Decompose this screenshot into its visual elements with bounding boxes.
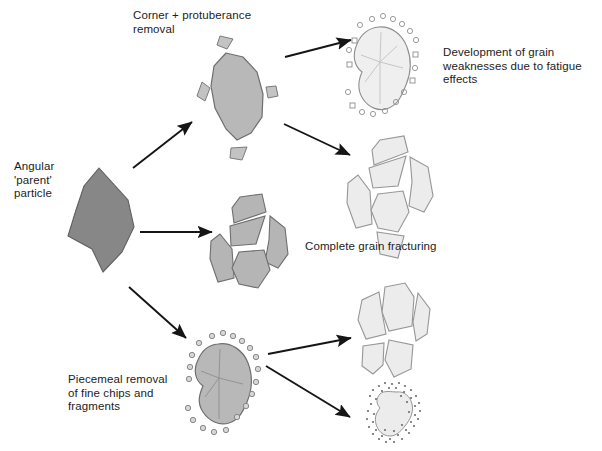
arrow-parent-to-corner-removal [133,122,192,168]
arrow-piecemeal-to-quartered [268,338,351,354]
arrow-parent-to-piecemeal [129,287,186,338]
label-angular-parent-particle: Angular 'parent' particle [14,160,84,201]
label-fatigue-weakness-development: Development of grain weaknesses due to f… [443,46,595,87]
label-piecemeal-removal: Piecemeal removal of fine chips and frag… [68,373,198,414]
label-corner-protuberance-removal: Corner + protuberance removal [133,9,308,36]
arrow-piecemeal-to-fines [266,366,350,417]
fractured-grain-mid [210,194,288,288]
fatigue-weakened-grain [345,13,418,116]
corner-protuberance-removed-grain [197,36,278,160]
diagram-root: Angular 'parent' particle Corner + protu… [0,0,602,451]
quartered-fractured-grain [358,283,430,377]
rounded-grain-with-fines-halo [366,382,421,443]
arrow-corner-to-fatigue [285,40,351,57]
label-complete-grain-fracturing: Complete grain fracturing [305,240,485,254]
arrow-corner-to-fragments [284,124,350,155]
